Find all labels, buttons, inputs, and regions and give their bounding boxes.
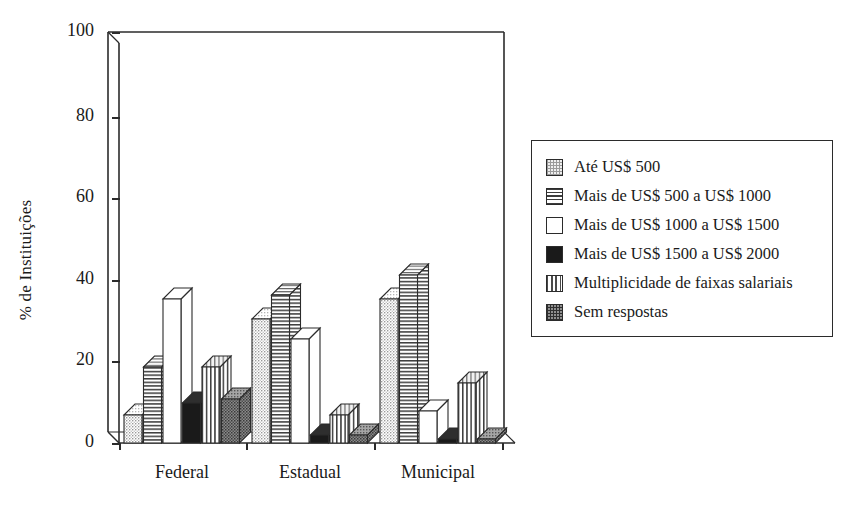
legend-swatch-white	[546, 217, 563, 234]
legend-item-500-1000[interactable]: Mais de US$ 500 a US$ 1000	[546, 182, 832, 211]
legend-item-sem-respostas[interactable]: Sem respostas	[546, 298, 832, 327]
legend-item-1500-2000[interactable]: Mais de US$ 1500 a US$ 2000	[546, 240, 832, 269]
chart-root: % de Instituições 100 80 60 40 20 0 Fede…	[0, 0, 843, 509]
legend-box: Até US$ 500 Mais de US$ 500 a US$ 1000 M…	[531, 140, 833, 337]
bar-front-Municipal-1	[400, 275, 418, 443]
legend-swatch-vertical-lines	[546, 275, 563, 292]
legend-item-1000-1500[interactable]: Mais de US$ 1000 a US$ 1500	[546, 211, 832, 240]
bar-front-Estadual-5	[350, 435, 368, 443]
bar-front-Federal-3	[183, 403, 201, 443]
legend-swatch-dark-stipple	[546, 304, 563, 321]
legend-label-2: Mais de US$ 1000 a US$ 1500	[574, 217, 779, 234]
bar-front-Federal-2	[163, 299, 181, 443]
bar-front-Estadual-3	[311, 435, 329, 443]
legend-swatch-light-stipple	[546, 159, 563, 176]
legend-swatch-horizontal-lines	[546, 188, 563, 205]
bar-front-Municipal-0	[380, 299, 398, 443]
bar-front-Estadual-0	[252, 319, 270, 443]
legend-label-4: Multiplicidade de faixas salariais	[574, 275, 793, 292]
bar-front-Estadual-1	[272, 295, 290, 443]
bar-front-Estadual-4	[330, 415, 348, 443]
bar-front-Estadual-2	[291, 339, 309, 443]
bar-front-Federal-0	[124, 415, 142, 443]
bar-front-Municipal-5	[478, 439, 496, 443]
legend-label-3: Mais de US$ 1500 a US$ 2000	[574, 246, 779, 263]
legend-label-0: Até US$ 500	[574, 159, 660, 176]
bar-front-Federal-4	[202, 367, 220, 443]
legend-label-5: Sem respostas	[574, 304, 668, 321]
legend-label-1: Mais de US$ 500 a US$ 1000	[574, 188, 771, 205]
bar-front-Federal-1	[144, 367, 162, 443]
bar-front-Federal-5	[222, 399, 240, 443]
bar-front-Municipal-3	[439, 439, 457, 443]
bar-front-Municipal-4	[458, 383, 476, 443]
bar-front-Municipal-2	[419, 411, 437, 443]
bar-side-Estadual-2	[309, 328, 320, 443]
legend-item-multiplicidade[interactable]: Multiplicidade de faixas salariais	[546, 269, 832, 298]
legend-swatch-black	[546, 246, 563, 263]
legend-item-ate-500[interactable]: Até US$ 500	[546, 153, 832, 182]
bars-layer	[0, 0, 560, 470]
